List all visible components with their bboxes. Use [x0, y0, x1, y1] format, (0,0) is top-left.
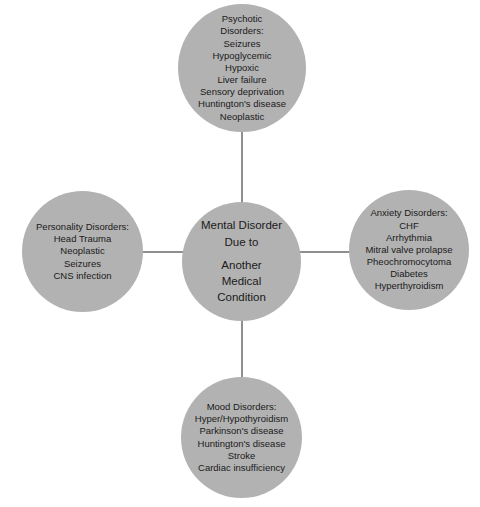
- connector-center-to-bottom: [241, 320, 243, 378]
- node-personality-disorders-text: Personality Disorders: Head Trauma Neopl…: [30, 221, 135, 282]
- node-mood-disorders-text: Mood Disorders: Hyper/Hypothyroidism Par…: [189, 401, 294, 474]
- node-psychotic-disorders: Psychotic Disorders: Seizures Hypoglycem…: [178, 4, 306, 132]
- mental-disorder-diagram: Psychotic Disorders: Seizures Hypoglycem…: [0, 0, 480, 507]
- center-line-1: Mental Disorder: [201, 219, 282, 231]
- center-line-3: Another: [221, 259, 261, 271]
- center-text-gap: [201, 250, 282, 257]
- node-psychotic-disorders-text: Psychotic Disorders: Seizures Hypoglycem…: [192, 13, 292, 122]
- connector-center-to-top: [241, 131, 243, 203]
- connector-center-to-left: [141, 251, 183, 253]
- center-line-5: Condition: [217, 291, 266, 303]
- connector-center-to-right: [300, 251, 350, 253]
- node-personality-disorders: Personality Disorders: Head Trauma Neopl…: [22, 191, 143, 312]
- node-mood-disorders: Mood Disorders: Hyper/Hypothyroidism Par…: [181, 377, 302, 498]
- center-line-2: Due to: [225, 236, 259, 248]
- node-central-mental-disorder-text: Mental DisorderDue toAnotherMedicalCondi…: [195, 217, 288, 306]
- node-anxiety-disorders: Anxiety Disorders: CHF Arrhythmia Mitral…: [349, 190, 469, 310]
- node-anxiety-disorders-text: Anxiety Disorders: CHF Arrhythmia Mitral…: [359, 207, 458, 292]
- center-line-4: Medical: [222, 275, 262, 287]
- node-central-mental-disorder: Mental DisorderDue toAnotherMedicalCondi…: [182, 202, 301, 321]
